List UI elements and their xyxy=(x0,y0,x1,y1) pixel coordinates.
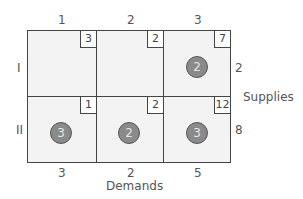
demands-label: Demands xyxy=(106,180,163,192)
supply-I: 2 xyxy=(235,62,243,74)
cost-box-II-1: 1 xyxy=(80,97,96,114)
demand-1: 3 xyxy=(58,167,66,179)
row-header-II: II xyxy=(16,124,23,136)
cost-box-II-3: 12 xyxy=(214,97,230,114)
cost-box-I-2: 2 xyxy=(147,31,163,48)
cost-box-II-2: 2 xyxy=(147,97,163,114)
tableau-grid: 3 2 7 1 2 12 2 3 2 3 xyxy=(27,30,231,163)
column-header-2: 2 xyxy=(127,14,135,26)
cost-box-I-3: 7 xyxy=(214,31,230,48)
row-header-I: I xyxy=(17,62,21,74)
supplies-label: Supplies xyxy=(243,91,294,103)
allocation-circle-I-3: 2 xyxy=(186,56,208,78)
grid-divider xyxy=(28,96,230,97)
column-header-1: 1 xyxy=(58,14,66,26)
column-header-3: 3 xyxy=(194,14,202,26)
demand-2: 2 xyxy=(127,167,135,179)
allocation-circle-II-1: 3 xyxy=(50,122,72,144)
allocation-circle-II-3: 3 xyxy=(186,122,208,144)
allocation-circle-II-2: 2 xyxy=(118,122,140,144)
demand-3: 5 xyxy=(194,167,202,179)
cost-box-I-1: 3 xyxy=(80,31,96,48)
supply-II: 8 xyxy=(235,124,243,136)
